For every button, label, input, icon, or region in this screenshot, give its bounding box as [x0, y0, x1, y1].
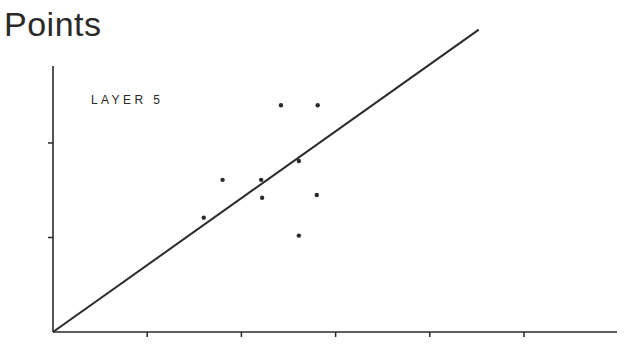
data-point — [297, 159, 301, 163]
data-point — [315, 193, 319, 197]
data-point — [260, 196, 264, 200]
data-point — [316, 103, 320, 107]
fit-line — [53, 30, 479, 332]
data-point — [259, 178, 263, 182]
layer-annotation: LAYER 5 — [91, 93, 163, 107]
reference-line — [53, 30, 479, 332]
data-point — [220, 178, 224, 182]
data-point — [202, 215, 206, 219]
data-points — [202, 103, 320, 238]
data-point — [297, 233, 301, 237]
data-point — [279, 103, 283, 107]
scatter-plot — [0, 0, 638, 350]
